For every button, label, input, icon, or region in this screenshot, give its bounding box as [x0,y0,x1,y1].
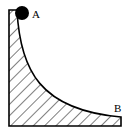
hatched-ramp-block [9,10,122,127]
ball [15,6,29,20]
ramp-diagram: A B [0,0,128,130]
label-b: B [114,102,121,114]
label-a: A [32,8,40,20]
